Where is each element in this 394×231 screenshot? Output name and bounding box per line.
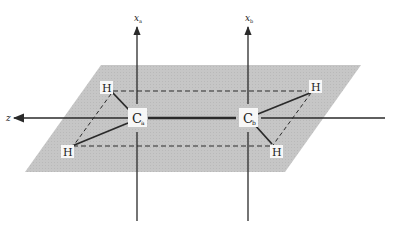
- carbon-a: C a: [128, 108, 147, 127]
- hydrogen-upper-right-symbol: H: [311, 81, 321, 94]
- z-axis-label: z: [5, 113, 11, 123]
- ethylene-diagram: C a C b H H H H z x a x b: [0, 0, 394, 231]
- hydrogen-lower-left: H: [61, 145, 74, 159]
- hydrogen-lower-right-symbol: H: [272, 146, 282, 159]
- hydrogen-lower-right: H: [270, 145, 283, 159]
- hydrogen-upper-left: H: [100, 81, 113, 95]
- carbon-b-subscript: b: [252, 119, 256, 126]
- hydrogen-lower-left-symbol: H: [63, 146, 73, 159]
- xb-axis-label-sub: b: [250, 18, 253, 24]
- hydrogen-upper-left-symbol: H: [102, 82, 112, 95]
- carbon-a-subscript: a: [141, 119, 145, 126]
- xa-axis-label-sub: a: [139, 18, 142, 24]
- hydrogen-upper-right: H: [309, 80, 322, 94]
- xa-axis-label: x a: [134, 13, 142, 24]
- xb-axis-label: x b: [245, 13, 253, 24]
- carbon-b: C b: [239, 108, 258, 127]
